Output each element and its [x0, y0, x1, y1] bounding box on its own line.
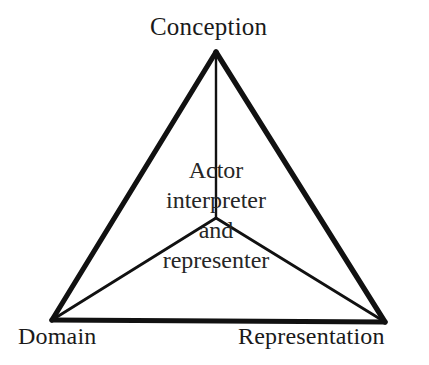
semiotic-triangle-diagram: Conception Domain Representation Actor i… — [0, 0, 429, 365]
center-label-line-2: interpreter — [112, 185, 320, 215]
vertex-label-representation: Representation — [238, 324, 385, 348]
edge-domain-to-representation — [52, 320, 385, 322]
center-label-line-3: and — [112, 215, 320, 245]
vertex-label-conception: Conception — [150, 14, 267, 39]
vertex-label-domain: Domain — [18, 324, 97, 348]
center-node-label: Actor interpreter and representer — [112, 155, 320, 275]
center-label-line-1: Actor — [112, 155, 320, 185]
center-label-line-4: representer — [112, 245, 320, 275]
